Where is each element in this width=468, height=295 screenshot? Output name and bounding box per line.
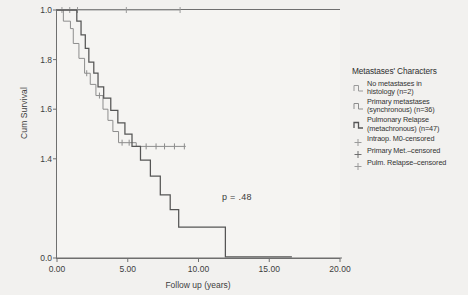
step-line-icon xyxy=(352,97,365,108)
legend-item: Pulm. Relapse–censored xyxy=(352,158,468,169)
legend-item-label: Primary Met.–censored xyxy=(367,146,440,156)
legend-item: Pulmonary Relapse(metachronous) (n=47) xyxy=(352,116,468,133)
legend-item-label: Pulmonary Relapse(metachronous) (n=47) xyxy=(367,116,439,133)
legend-item-label-line2: (metachronous) (n=47) xyxy=(367,125,439,133)
legend-item-label-line2: histology (n=2) xyxy=(367,88,422,96)
legend-item-label: Primary metastases(synchronous) (n=36) xyxy=(367,97,435,114)
censor-marker-icon xyxy=(352,134,365,145)
legend-item: Primary metastases(synchronous) (n=36) xyxy=(352,97,468,114)
p-value-annotation: p = .48 xyxy=(222,192,252,202)
legend-item-label: Pulm. Relapse–censored xyxy=(367,158,446,168)
legend-item: No metastases inhistology (n=2) xyxy=(352,79,468,96)
legend-title: Metastases' Characters xyxy=(352,66,468,76)
survival-curve-2 xyxy=(57,10,292,257)
kaplan-meier-figure: 0.01.41.61.81.0 0.005.0010.0015.0020.00 … xyxy=(0,0,468,295)
legend: Metastases' Characters No metastases inh… xyxy=(352,66,468,170)
legend-item: Intraop. M0-censored xyxy=(352,134,468,145)
step-line-icon xyxy=(352,116,365,127)
survival-curve-1 xyxy=(57,10,186,146)
legend-item: Primary Met.–censored xyxy=(352,146,468,157)
censor-marker-icon xyxy=(352,158,365,169)
censor-marker-icon xyxy=(352,146,365,157)
legend-item-label-line2: (synchronous) (n=36) xyxy=(367,106,435,114)
legend-item-label: Intraop. M0-censored xyxy=(367,134,434,144)
legend-item-label: No metastases inhistology (n=2) xyxy=(367,79,422,96)
step-line-icon xyxy=(352,79,365,90)
